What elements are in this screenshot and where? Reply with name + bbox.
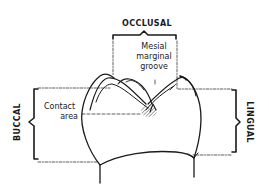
- buccal-bracket: [29, 89, 38, 159]
- groove-label-line3: groove: [128, 63, 180, 71]
- contact-area-label: Contact area: [44, 103, 82, 121]
- occlusal-bracket: [113, 31, 176, 39]
- buccal-label: BUCCAL: [14, 100, 22, 144]
- contact-area-hatch: [141, 105, 157, 117]
- mesial-marginal-groove-label: Mesial marginal groove: [128, 43, 180, 71]
- contact-label-line1: Contact: [44, 103, 82, 111]
- tooth-illustration: [0, 0, 269, 193]
- groove-label-line2: marginal: [128, 53, 180, 61]
- contact-label-line2: area: [44, 113, 82, 121]
- occlusal-label: OCCLUSAL: [122, 20, 172, 28]
- groove-label-line1: Mesial: [128, 43, 180, 51]
- lingual-label: LINGUAL: [245, 98, 253, 146]
- tooth-diagram: OCCLUSAL Mesial marginal groove Contact …: [0, 0, 269, 193]
- lingual-bracket: [232, 90, 240, 152]
